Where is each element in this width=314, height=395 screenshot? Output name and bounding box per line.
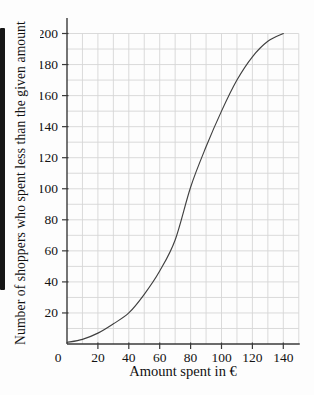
x-tick-label: 100: [211, 350, 232, 362]
x-tick-label: 140: [273, 350, 294, 362]
scan-edge-artifact: [0, 28, 5, 290]
x-tick-label: 60: [153, 350, 167, 362]
y-tick-label: 140: [40, 119, 58, 134]
y-tick-label: 60: [45, 243, 59, 258]
x-tick-label: 0: [55, 350, 62, 362]
y-tick-label: 160: [40, 88, 58, 103]
y-tick-label: 40: [45, 274, 59, 289]
y-tick-label: 120: [40, 150, 58, 165]
x-tick-label: 120: [242, 350, 263, 362]
y-tick-label: 180: [40, 57, 58, 72]
y-tick-label: 200: [40, 26, 58, 41]
y-tick-label: 20: [45, 305, 59, 320]
x-axis-title: Amount spent in €: [67, 363, 299, 380]
scanned-chart-page: Number of shoppers who spent less than t…: [0, 0, 314, 395]
x-tick-label: 40: [122, 350, 136, 362]
cumulative-frequency-plot: 2040608010012014016018020002040608010012…: [40, 10, 314, 362]
y-axis-title: Number of shoppers who spent less than t…: [13, 13, 29, 353]
y-tick-label: 100: [40, 181, 58, 196]
x-tick-label: 80: [184, 350, 198, 362]
x-tick-label: 20: [91, 350, 105, 362]
y-tick-label: 80: [45, 212, 59, 227]
